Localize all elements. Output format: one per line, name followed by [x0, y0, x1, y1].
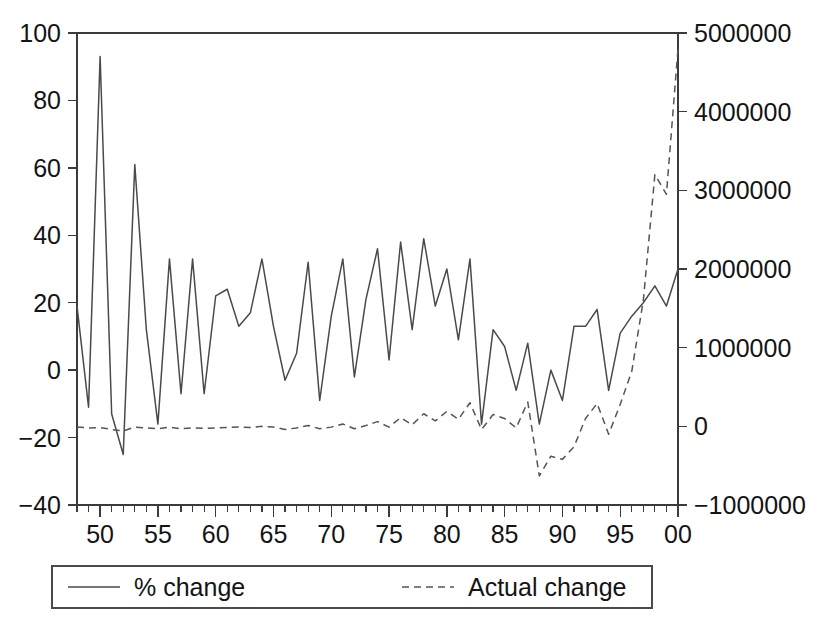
x-tick-label: 70: [317, 520, 345, 548]
chart-figure: −40−20020406080100 −10000000100000020000…: [0, 0, 819, 635]
left-tick-label: −40: [19, 491, 61, 519]
left-tick-label: 20: [33, 289, 61, 317]
left-tick-label: −20: [19, 424, 61, 452]
right-axis-ticks: −100000001000000200000030000004000000500…: [678, 19, 806, 519]
x-tick-label: 75: [375, 520, 403, 548]
left-tick-label: 0: [47, 356, 61, 384]
right-tick-label: 2000000: [694, 255, 791, 283]
x-tick-label: 65: [260, 520, 288, 548]
x-tick-label: 85: [491, 520, 519, 548]
legend-label-2: Actual change: [468, 573, 626, 601]
x-tick-label: 55: [144, 520, 172, 548]
right-tick-label: 1000000: [694, 334, 791, 362]
series-line-2: [77, 49, 678, 476]
x-tick-label: 00: [664, 520, 692, 548]
x-tick-label: 50: [86, 520, 114, 548]
x-tick-label: 95: [606, 520, 634, 548]
left-tick-label: 60: [33, 154, 61, 182]
series-layer: [77, 49, 678, 476]
right-tick-label: 0: [694, 412, 708, 440]
x-tick-label: 90: [549, 520, 577, 548]
chart-legend: % changeActual change: [52, 566, 652, 608]
dual-axis-line-chart: −40−20020406080100 −10000000100000020000…: [0, 0, 819, 635]
left-axis-ticks: −40−20020406080100: [19, 19, 77, 519]
left-tick-label: 100: [19, 19, 61, 47]
right-tick-label: 3000000: [694, 176, 791, 204]
right-tick-label: 5000000: [694, 19, 791, 47]
x-tick-label: 60: [202, 520, 230, 548]
right-tick-label: 4000000: [694, 98, 791, 126]
right-tick-label: −1000000: [694, 491, 806, 519]
plot-frame: [77, 33, 678, 505]
x-axis-ticks: 5055606570758085909500: [77, 505, 692, 548]
legend-label-1: % change: [134, 573, 245, 601]
x-tick-label: 80: [433, 520, 461, 548]
series-line-1: [77, 57, 678, 455]
left-tick-label: 80: [33, 86, 61, 114]
left-tick-label: 40: [33, 221, 61, 249]
